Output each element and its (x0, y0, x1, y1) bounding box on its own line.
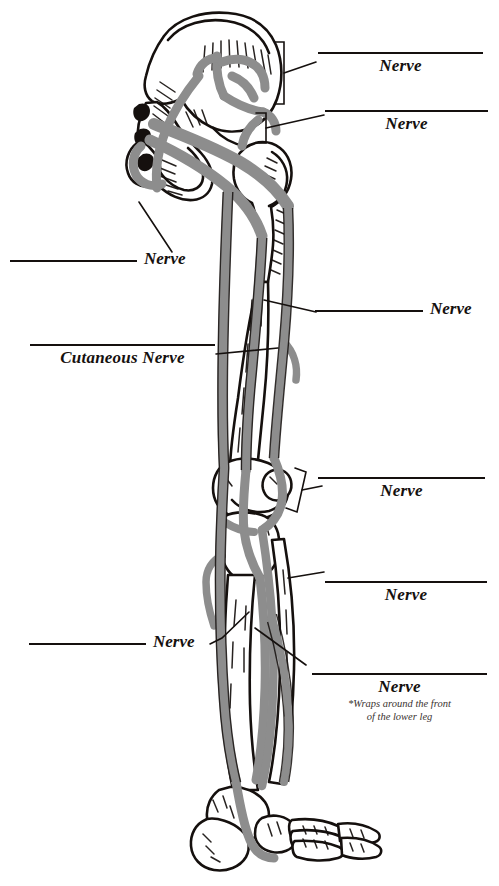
nerve-plexus-branch-b (222, 59, 253, 64)
leader-left-2 (216, 348, 278, 354)
nerve-hip-band (154, 124, 288, 206)
label-left-1[interactable]: Nerve (10, 250, 186, 267)
footnote-line-2: of the lower leg (348, 711, 451, 724)
metatarsal-1 (289, 819, 343, 842)
femur-proximal (233, 142, 291, 282)
fibula-bone (269, 539, 294, 784)
label-text: Cutaneous Nerve (60, 348, 184, 368)
leader-left-1 (139, 202, 172, 252)
nerve-plexus-trunk (217, 56, 224, 96)
bracket-top-2 (256, 113, 266, 143)
nerve-pathways (133, 56, 296, 858)
phalanges-group (338, 823, 380, 844)
nerve-plantar-foot (236, 782, 274, 858)
nerve-popliteal-branch (224, 522, 254, 532)
sacral-foramen-3 (137, 153, 154, 171)
phalanges-group-2 (341, 838, 381, 859)
metatarsal-2 (291, 830, 347, 851)
bracket-knee (286, 468, 306, 512)
label-text: Nerve (153, 633, 195, 650)
sacral-foramen-1 (133, 103, 150, 121)
label-text: Nerve (380, 481, 423, 501)
answer-blank-left-2[interactable] (30, 344, 215, 346)
nerve-plexus-branch-d (224, 96, 263, 112)
label-text: Nerve (430, 300, 472, 317)
nerve-femoral-thigh (246, 236, 262, 470)
tibia-proximal (219, 512, 279, 580)
label-right-3[interactable]: Nerve (315, 300, 472, 317)
sacral-foramen-2 (134, 128, 151, 146)
label-footnote: *Wraps around the front of the lower leg (348, 698, 451, 724)
nerve-superior-branch (232, 76, 254, 98)
nerve-hip-band-2 (150, 140, 262, 236)
label-text: Nerve (385, 114, 428, 134)
bracket-top-1 (275, 42, 284, 104)
label-text: Nerve (144, 250, 186, 267)
answer-blank-right-4[interactable] (318, 477, 485, 479)
footnote-line-1: *Wraps around the front (348, 698, 451, 711)
worksheet-canvas: Nerve Nerve Nerve Nerve Cutaneous Nerve … (0, 0, 499, 886)
label-right-4[interactable]: Nerve (318, 477, 485, 501)
femoral-condyles (213, 459, 288, 520)
nerve-plexus-branch-c (253, 64, 265, 88)
nerve-deep-fibular (262, 530, 274, 786)
bone-hatching (153, 40, 364, 862)
answer-blank-right-5[interactable] (325, 581, 487, 583)
answer-blank-left-3[interactable] (29, 643, 146, 645)
patella-bone (263, 470, 292, 501)
nerve-pelvic-loop (133, 146, 162, 186)
nerve-outlines (215, 192, 293, 782)
leader-top-1 (284, 62, 316, 73)
nerve-superficial-fibular (272, 618, 289, 782)
leader-right-6 (255, 628, 306, 665)
nerve-lateral-branch-thigh (284, 342, 297, 380)
skeleton-group (126, 13, 381, 871)
nerve-saphenous (243, 470, 260, 578)
label-right-5[interactable]: Nerve (325, 581, 487, 605)
ilium-bone (145, 13, 282, 132)
nerve-tibial-calf (220, 468, 236, 782)
label-right-6[interactable]: Nerve *Wraps around the front of the low… (312, 673, 487, 724)
nerve-plexus-branch-a (197, 58, 217, 74)
femur-shaft (230, 282, 268, 470)
hip-joint-socket (213, 128, 245, 146)
leader-top-2 (266, 115, 324, 128)
nerve-sciatic-trunk (156, 76, 199, 188)
label-left-3[interactable]: Nerve (29, 633, 195, 650)
answer-blank-right-1[interactable] (318, 52, 483, 54)
leader-right-5 (288, 572, 324, 578)
intercondylar-notch (232, 491, 286, 512)
obturator-foramen (151, 148, 203, 190)
answer-blank-right-6[interactable] (312, 673, 487, 675)
leader-left-3 (210, 612, 249, 644)
answer-blank-right-2[interactable] (325, 110, 488, 112)
talus-bone (207, 787, 269, 842)
greater-trochanter (269, 152, 287, 206)
pubic-ramus (126, 142, 160, 186)
label-text: Nerve (378, 677, 421, 697)
nerve-lateral-cutaneous (274, 206, 289, 458)
nerve-plexus-branch-e (263, 112, 276, 131)
ischium-bone (137, 102, 212, 200)
nerve-plexus-branch-f (242, 120, 258, 146)
leader-right-3 (264, 300, 316, 312)
nerve-common-fibular (262, 458, 283, 530)
label-right-2[interactable]: Nerve (325, 110, 488, 134)
tibia-shaft (224, 575, 258, 790)
answer-blank-right-3[interactable] (315, 310, 423, 312)
label-text: Nerve (379, 56, 422, 76)
answer-blank-left-1[interactable] (10, 260, 137, 262)
iliac-crest (168, 20, 269, 53)
label-right-1[interactable]: Nerve (318, 52, 483, 76)
calcaneus-bone (191, 819, 249, 871)
nerve-medial-branch (206, 556, 222, 626)
metatarsal-3 (293, 841, 344, 861)
label-text: Nerve (385, 585, 428, 605)
nerve-saphenous-leg (256, 578, 265, 780)
nerve-sciatic-thigh (222, 190, 228, 468)
midfoot-bones (255, 816, 298, 853)
label-left-2[interactable]: Cutaneous Nerve (30, 344, 215, 368)
